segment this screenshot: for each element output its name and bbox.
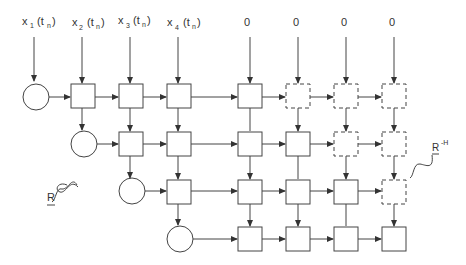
boundary-cell-circle [167, 226, 193, 252]
internal-cell-square [238, 132, 262, 156]
svg-text:x: x [22, 15, 28, 27]
internal-cell-square [119, 132, 143, 156]
svg-text:4: 4 [175, 24, 179, 31]
svg-text:n: n [96, 23, 100, 30]
svg-text:): ) [52, 15, 56, 27]
dashed-cell-square [382, 132, 406, 156]
r-region-tilde-icon [52, 182, 77, 202]
svg-text:n: n [47, 22, 51, 29]
svg-text:(t: (t [133, 14, 140, 26]
svg-text:R: R [47, 191, 55, 203]
boundary-cell-circle [71, 131, 97, 157]
svg-text:(t: (t [183, 16, 190, 28]
internal-cell-square [286, 180, 310, 204]
internal-cell-square [167, 84, 191, 108]
input-label-x4: x 4 (t n ) [167, 16, 201, 31]
svg-text:3: 3 [126, 22, 130, 29]
internal-cell-square [382, 227, 406, 251]
internal-cell-square [334, 180, 358, 204]
svg-text:2: 2 [79, 24, 83, 31]
internal-cell-square [238, 227, 262, 251]
svg-text:x: x [167, 16, 173, 28]
svg-text:(t: (t [37, 15, 44, 27]
r-region-tilde [57, 184, 78, 192]
internal-cell-square [286, 132, 310, 156]
input-label-x1: x 1 (t n ) [22, 15, 56, 29]
boundary-cell-circle [23, 84, 49, 110]
r-inv-h-region-tilde-icon [410, 155, 432, 178]
internal-cell-square [334, 227, 358, 251]
zero-input-label: 0 [244, 16, 250, 28]
internal-cell-square [238, 84, 262, 108]
svg-text:(t: (t [87, 16, 94, 28]
input-label-x3: x 3 (t n ) [118, 14, 151, 29]
svg-text:): ) [197, 16, 201, 28]
dashed-cell-square [382, 180, 406, 204]
svg-text:-H: -H [441, 139, 448, 146]
dashed-cell-square [334, 132, 358, 156]
dashed-cell-square [286, 84, 310, 108]
svg-text:n: n [192, 23, 196, 30]
internal-cell-square [286, 227, 310, 251]
zero-input-label: 0 [389, 16, 395, 28]
svg-text:1: 1 [30, 22, 34, 29]
internal-cell-square [71, 84, 95, 108]
internal-cell-square [119, 84, 143, 108]
svg-text:R: R [432, 142, 439, 153]
internal-cell-square [238, 180, 262, 204]
boundary-cell-circle [119, 178, 145, 204]
systolic-array-diagram: x 1 (t n ) x 2 (t n ) x 3 (t n ) x 4 (t … [0, 0, 466, 265]
svg-text:): ) [101, 16, 105, 28]
svg-text:x: x [72, 16, 78, 28]
zero-input-label: 0 [293, 16, 299, 28]
internal-cell-square [167, 180, 191, 204]
zero-input-label: 0 [341, 16, 347, 28]
input-label-x2: x 2 (t n ) [72, 16, 105, 31]
dashed-cell-square [334, 84, 358, 108]
internal-cell-square [167, 132, 191, 156]
svg-text:n: n [142, 21, 146, 28]
svg-text:x: x [118, 14, 124, 26]
dashed-cell-square [382, 84, 406, 108]
r-inv-h-matrix-label: R -H [432, 139, 448, 154]
r-matrix-label: R [47, 191, 55, 205]
svg-text:): ) [147, 14, 151, 26]
